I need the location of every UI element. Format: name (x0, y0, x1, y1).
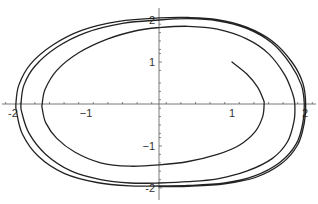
phase-plot: -2−112 21−1-2 (0, 0, 318, 204)
x-tick-label: −1 (80, 107, 93, 119)
trajectory-series (16, 17, 306, 186)
y-tick-label: −1 (142, 140, 155, 152)
y-tick-label: 1 (149, 56, 155, 68)
trajectory-curve (16, 17, 306, 186)
x-tick-label: 1 (229, 107, 235, 119)
